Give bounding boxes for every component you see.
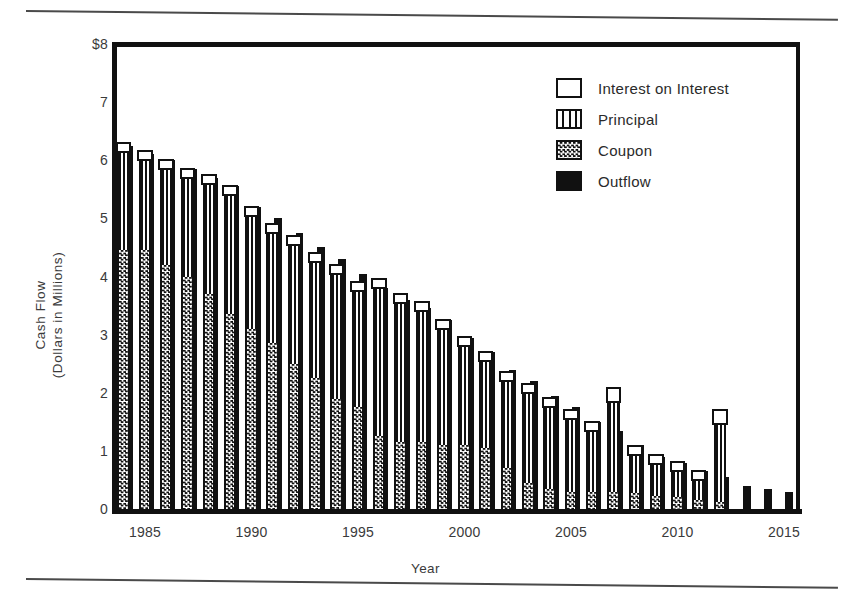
bar-segment-interest-on-interest-1989[interactable] (224, 192, 237, 314)
bar-segment-interest-on-interest-2009[interactable] (650, 461, 663, 496)
bar-segment-principal-2005[interactable] (563, 409, 579, 420)
bar-segment-interest-on-interest-2008[interactable] (629, 452, 642, 493)
bar-segment-coupon-2005[interactable] (565, 492, 578, 509)
bar-segment-coupon-1993[interactable] (309, 378, 322, 509)
bar-segment-coupon-1991[interactable] (266, 343, 279, 509)
bar-segment-interest-on-interest-2000[interactable] (458, 343, 471, 445)
bar-segment-principal-2010[interactable] (670, 461, 686, 472)
bar-segment-principal-1988[interactable] (201, 174, 217, 185)
bar-segment-principal-1996[interactable] (371, 278, 387, 289)
bar-segment-interest-on-interest-1996[interactable] (373, 285, 386, 436)
bar-segment-interest-on-interest-1993[interactable] (309, 259, 322, 378)
legend-item-interest-on-interest[interactable]: Interest on Interest (556, 74, 806, 102)
bar-segment-principal-2011[interactable] (691, 470, 707, 481)
bar-segment-coupon-1986[interactable] (160, 265, 173, 509)
bar-segment-coupon-1995[interactable] (352, 407, 365, 509)
bar-segment-principal-1992[interactable] (286, 235, 302, 246)
bar-segment-interest-on-interest-1991[interactable] (266, 230, 279, 343)
bar-segment-principal-1989[interactable] (222, 185, 238, 196)
legend-item-principal[interactable]: Principal (556, 105, 806, 133)
bar-segment-principal-2002[interactable] (499, 371, 515, 382)
bar-segment-coupon-2004[interactable] (543, 489, 556, 509)
bar-segment-interest-on-interest-1985[interactable] (139, 157, 152, 250)
bar-segment-principal-1986[interactable] (158, 159, 174, 170)
bar-segment-principal-2006[interactable] (584, 421, 600, 432)
bar-segment-coupon-2010[interactable] (671, 497, 684, 509)
bar-segment-coupon-1999[interactable] (437, 445, 450, 509)
bar-segment-principal-1994[interactable] (329, 264, 345, 275)
bar-segment-coupon-2008[interactable] (629, 493, 642, 509)
bar-segment-coupon-1994[interactable] (330, 399, 343, 509)
bar-segment-coupon-2000[interactable] (458, 445, 471, 509)
bar-segment-interest-on-interest-1999[interactable] (437, 326, 450, 445)
bar-segment-outflow-2014[interactable] (764, 489, 772, 509)
bar-segment-principal-1985[interactable] (137, 150, 153, 161)
x-tick-label-2005: 2005 (555, 524, 587, 540)
cash-flow-figure: 01234567$8 Cash Flow (Dollars in Million… (0, 0, 851, 601)
bar-segment-interest-on-interest-1988[interactable] (203, 181, 216, 294)
bar-segment-principal-2001[interactable] (478, 351, 494, 362)
bar-segment-interest-on-interest-1990[interactable] (245, 213, 258, 329)
bar-segment-principal-1991[interactable] (265, 223, 281, 234)
bar-segment-principal-2012[interactable] (712, 409, 728, 425)
bar-segment-principal-2007[interactable] (606, 387, 622, 403)
bar-segment-interest-on-interest-1995[interactable] (352, 288, 365, 407)
bar-segment-principal-2008[interactable] (627, 445, 643, 456)
bar-segment-coupon-2012[interactable] (714, 502, 727, 509)
bar-segment-coupon-1998[interactable] (416, 442, 429, 509)
bar-segment-interest-on-interest-1992[interactable] (288, 242, 301, 364)
bar-segment-coupon-2003[interactable] (522, 483, 535, 509)
bar-segment-coupon-1985[interactable] (139, 250, 152, 509)
legend-item-coupon[interactable]: Coupon (556, 136, 806, 164)
bar-segment-interest-on-interest-2005[interactable] (565, 416, 578, 492)
bar-segment-principal-1984[interactable] (116, 142, 132, 153)
bar-segment-principal-1997[interactable] (393, 293, 409, 304)
bar-segment-interest-on-interest-2001[interactable] (479, 358, 492, 448)
bar-segment-principal-1990[interactable] (244, 206, 260, 217)
bar-segment-coupon-2007[interactable] (607, 492, 620, 509)
bar-segment-interest-on-interest-2007[interactable] (607, 399, 620, 492)
bar-segment-principal-1999[interactable] (435, 319, 451, 330)
x-tick-label-2015: 2015 (768, 524, 800, 540)
bar-segment-coupon-1990[interactable] (245, 329, 258, 509)
bar-segment-interest-on-interest-2003[interactable] (522, 390, 535, 483)
bar-segment-interest-on-interest-2004[interactable] (543, 404, 556, 488)
bar-segment-coupon-2001[interactable] (479, 448, 492, 509)
legend-item-outflow[interactable]: Outflow (556, 167, 806, 195)
bar-segment-coupon-2006[interactable] (586, 492, 599, 509)
bar-segment-interest-on-interest-2002[interactable] (501, 378, 514, 468)
bar-segment-coupon-1989[interactable] (224, 314, 237, 509)
bar-segment-coupon-1987[interactable] (181, 277, 194, 510)
bar-segment-principal-1987[interactable] (180, 168, 196, 179)
bar-segment-coupon-1992[interactable] (288, 364, 301, 509)
bar-segment-coupon-2002[interactable] (501, 468, 514, 509)
bar-segment-outflow-2013[interactable] (743, 486, 751, 509)
bar-segment-coupon-1996[interactable] (373, 436, 386, 509)
bar-segment-interest-on-interest-2012[interactable] (714, 421, 727, 502)
legend-label-2: Coupon (598, 142, 652, 159)
bar-segment-principal-2000[interactable] (457, 336, 473, 347)
bar-segment-coupon-2011[interactable] (692, 500, 705, 509)
bar-segment-interest-on-interest-1987[interactable] (181, 175, 194, 277)
legend-label-3: Outflow (598, 173, 651, 190)
legend-swatch-coupon (556, 140, 582, 160)
bar-segment-coupon-1988[interactable] (203, 294, 216, 509)
bar-segment-interest-on-interest-1986[interactable] (160, 166, 173, 265)
bar-segment-coupon-1997[interactable] (394, 442, 407, 509)
bar-segment-principal-2009[interactable] (648, 454, 664, 465)
x-axis-title: Year (0, 561, 851, 576)
bar-segment-interest-on-interest-2006[interactable] (586, 428, 599, 492)
bar-segment-interest-on-interest-1997[interactable] (394, 300, 407, 442)
bar-segment-principal-1998[interactable] (414, 301, 430, 312)
bar-segment-interest-on-interest-1998[interactable] (416, 308, 429, 442)
bar-segment-principal-1995[interactable] (350, 281, 366, 292)
bar-segment-coupon-1984[interactable] (117, 250, 130, 509)
bar-segment-interest-on-interest-2010[interactable] (671, 468, 684, 497)
bar-segment-principal-2004[interactable] (542, 397, 558, 408)
bar-segment-principal-2003[interactable] (521, 383, 537, 394)
bar-segment-interest-on-interest-1994[interactable] (330, 271, 343, 399)
bar-segment-principal-1993[interactable] (308, 252, 324, 263)
bar-segment-outflow-2015[interactable] (785, 492, 793, 509)
bar-segment-coupon-2009[interactable] (650, 496, 663, 509)
bar-segment-interest-on-interest-1984[interactable] (117, 149, 130, 251)
